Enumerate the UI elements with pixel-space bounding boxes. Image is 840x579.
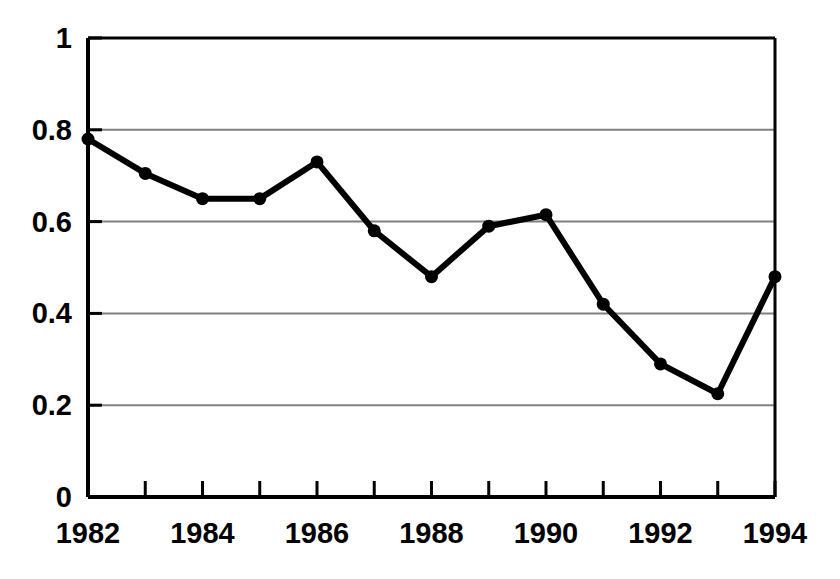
y-tick-label: 0	[56, 481, 72, 513]
data-point	[368, 224, 381, 237]
data-point	[711, 387, 724, 400]
y-tick-label: 0.2	[32, 389, 72, 421]
data-point	[654, 357, 667, 370]
x-tick-label: 1986	[285, 517, 350, 549]
chart-canvas: 00.20.40.60.81 1982198419861988199019921…	[0, 0, 840, 579]
x-tick-label: 1994	[743, 517, 808, 549]
data-point	[540, 208, 553, 221]
x-axis-tick-labels: 1982198419861988199019921994	[56, 517, 808, 549]
x-tick-label: 1992	[628, 517, 693, 549]
data-point	[139, 167, 152, 180]
x-tick-label: 1988	[399, 517, 464, 549]
data-point	[597, 298, 610, 311]
data-point	[253, 192, 266, 205]
data-point	[425, 270, 438, 283]
y-axis-tick-labels: 00.20.40.60.81	[32, 22, 72, 513]
y-tick-label: 0.6	[32, 206, 72, 238]
line-chart: 00.20.40.60.81 1982198419861988199019921…	[0, 0, 840, 579]
data-point	[482, 220, 495, 233]
data-point	[311, 155, 324, 168]
data-point	[82, 132, 95, 145]
x-tick-label: 1982	[56, 517, 121, 549]
x-tick-label: 1984	[170, 517, 235, 549]
x-tick-label: 1990	[514, 517, 579, 549]
y-tick-label: 0.4	[32, 297, 72, 329]
plot-background	[88, 38, 775, 497]
data-point	[769, 270, 782, 283]
y-tick-label: 1	[56, 22, 72, 54]
data-point	[196, 192, 209, 205]
y-tick-label: 0.8	[32, 114, 72, 146]
